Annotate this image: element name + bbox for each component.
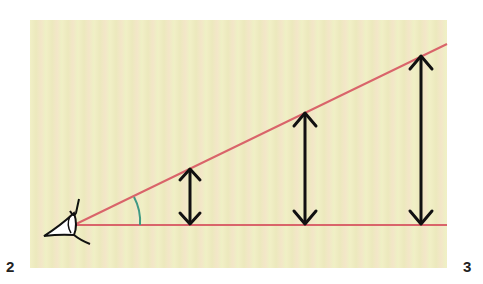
figure-label-left: 2 xyxy=(6,258,14,275)
arrow-short xyxy=(180,169,200,224)
figure-label-right: 3 xyxy=(463,258,471,275)
arrow-tall xyxy=(410,56,432,224)
angle-arc xyxy=(134,197,140,225)
arrow-medium xyxy=(294,113,316,224)
perspective-diagram xyxy=(0,0,483,284)
upper-ray xyxy=(74,44,447,225)
